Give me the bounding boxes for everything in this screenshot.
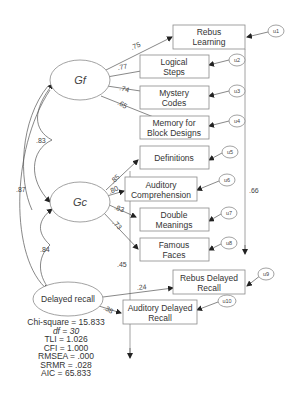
svg-text:Comprehension: Comprehension	[131, 190, 191, 200]
coef-rebus-learning: .75	[130, 41, 142, 51]
svg-text:Mystery: Mystery	[159, 88, 190, 98]
svg-text:Double: Double	[161, 210, 188, 220]
svg-text:Rebus: Rebus	[197, 27, 222, 37]
svg-text:u6: u6	[224, 177, 230, 183]
coef-definitions: .85	[109, 173, 121, 185]
svg-text:u1: u1	[273, 28, 279, 34]
coef-rebus-delayed: .24	[136, 283, 146, 291]
coef-double-meanings: .83	[114, 203, 126, 213]
svg-text:Famous: Famous	[159, 240, 190, 250]
latent-gc-label: Gc	[73, 196, 88, 208]
coef-auditory-cross: .45	[117, 261, 127, 268]
svg-text:u8: u8	[226, 240, 232, 246]
svg-text:Learning: Learning	[192, 37, 225, 47]
latent-gf-label: Gf	[74, 74, 87, 86]
svg-text:Rebus Delayed: Rebus Delayed	[180, 273, 238, 283]
coef-memory-block: .65	[117, 99, 129, 110]
coef-mystery-codes: .74	[119, 84, 130, 93]
coef-gc-delayed: .84	[40, 246, 50, 253]
corr-gf-gc	[34, 140, 52, 202]
svg-text:Logical: Logical	[161, 57, 188, 67]
svg-text:Codes: Codes	[162, 98, 187, 108]
latent-delayed-label: Delayed recall	[41, 294, 95, 304]
svg-text:u5: u5	[227, 149, 233, 155]
coef-auditory-comp: .80	[107, 184, 119, 195]
svg-text:Steps: Steps	[163, 67, 185, 77]
svg-text:Definitions: Definitions	[154, 153, 194, 163]
svg-text:u2: u2	[234, 57, 240, 63]
svg-text:Memory for: Memory for	[153, 118, 196, 128]
coef-logical-steps: .77	[117, 62, 128, 71]
coef-rebus-cross: .66	[249, 187, 259, 194]
coef-famous-faces: .73	[111, 219, 123, 231]
svg-text:u3: u3	[234, 88, 240, 94]
svg-text:Auditory: Auditory	[145, 180, 177, 190]
svg-text:Block Designs: Block Designs	[147, 128, 201, 138]
fit-aic: AIC = 65.833	[16, 369, 116, 378]
fit-statistics: Chi-square = 15.833 df = 30 TLI = 1.026 …	[16, 318, 116, 378]
svg-text:Recall: Recall	[197, 283, 221, 293]
svg-text:u4: u4	[234, 118, 240, 124]
svg-text:Auditory Delayed: Auditory Delayed	[128, 303, 193, 313]
svg-text:u7: u7	[226, 210, 232, 216]
svg-text:u10: u10	[222, 298, 231, 304]
coef-gf-gc: .83	[36, 137, 46, 144]
svg-text:Recall: Recall	[148, 313, 172, 323]
svg-text:Meanings: Meanings	[156, 220, 193, 230]
svg-text:u9: u9	[263, 271, 269, 277]
svg-text:Faces: Faces	[162, 250, 185, 260]
coef-auditory-delayed: .38	[103, 304, 115, 315]
coef-gf-delayed: .87	[16, 186, 26, 193]
